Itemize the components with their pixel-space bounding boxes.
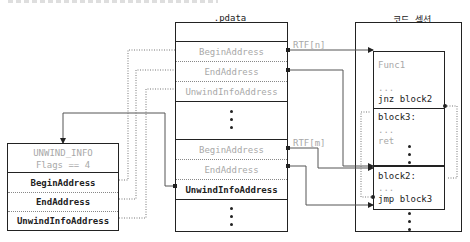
connector-lines (0, 0, 470, 242)
